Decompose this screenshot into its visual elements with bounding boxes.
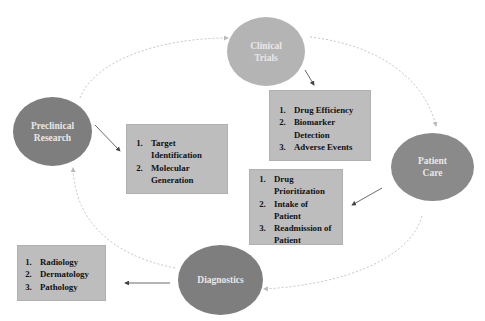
list-item: Readmission of Patient [268,222,336,247]
list-item: Molecular Generation [145,162,211,187]
list-item: Radiology [34,256,103,268]
arrow-care-to-box [352,188,382,205]
node-label: Diagnostics [197,274,243,286]
node-label: Care [423,168,443,178]
list-item: Dermatology [34,268,103,280]
node-preclinical-research: Preclinical Research [13,97,92,166]
node-clinical-trials: Clinical Trials [227,17,305,86]
list-item: Pathology [34,281,103,293]
box-preclinical-research: Target Identification Molecular Generati… [126,124,228,194]
box-patient-care: Drug Prioritization Intake of Patient Re… [249,169,343,245]
node-label: Research [34,133,71,143]
list-item: Biomarker Detection [288,116,344,141]
list-item: Intake of Patient [268,198,319,223]
list-item: Target Identification [145,137,211,162]
list-item: Drug Prioritization [268,173,324,198]
node-label: Patient [418,156,447,166]
node-label: Trials [254,53,278,63]
node-label: Clinical [250,41,282,51]
node-patient-care: Patient Care [391,133,474,201]
arrow-trials-to-box [305,70,314,85]
arrow-preclinical-to-box [95,125,120,151]
list-item: Adverse Events [288,141,366,153]
node-label: Preclinical [31,121,74,131]
list-item: Drug Efficiency [288,104,366,116]
box-diagnostics: Radiology Dermatology Pathology [17,245,106,301]
cycle-path-preclinical-to-trials [80,38,228,98]
node-diagnostics: Diagnostics [178,245,263,315]
box-clinical-trials: Drug Efficiency Biomarker Detection Adve… [269,90,371,161]
